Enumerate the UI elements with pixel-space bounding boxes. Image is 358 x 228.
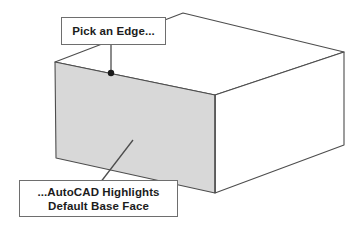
pick-point-marker	[108, 70, 114, 76]
callout-autocad-highlights: ...AutoCAD Highlights Default Base Face	[19, 180, 178, 217]
callout-pick-an-edge-label: Pick an Edge...	[72, 25, 155, 37]
callout-pick-an-edge: Pick an Edge...	[61, 17, 166, 45]
callout-highlight-line-2: Default Base Face	[48, 199, 149, 213]
callout-highlight-line-1: ...AutoCAD Highlights	[37, 185, 159, 199]
illustration-canvas: Pick an Edge... ...AutoCAD Highlights De…	[0, 0, 358, 228]
